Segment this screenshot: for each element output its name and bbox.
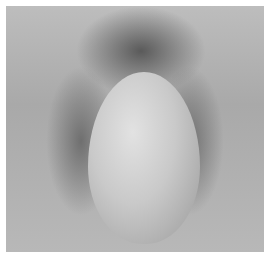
image-frame	[0, 0, 270, 258]
photograph	[6, 6, 264, 252]
